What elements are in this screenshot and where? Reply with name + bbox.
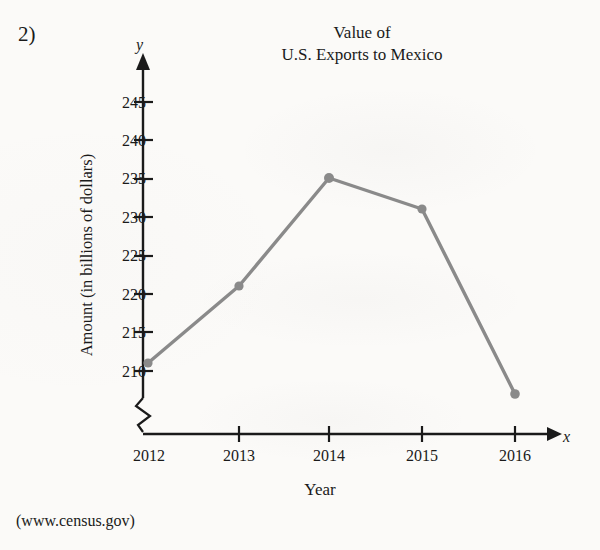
data-point-2014 (324, 173, 334, 183)
plot-area (0, 0, 600, 550)
source-note: (www.census.gov) (16, 512, 135, 530)
y-axis-break-symbol (136, 398, 150, 432)
x-axis-line (143, 427, 562, 441)
data-point-2015 (417, 204, 426, 213)
data-line-series (148, 178, 515, 394)
exports-line-chart-figure: 2) Value of U.S. Exports to Mexico y x A… (0, 0, 600, 550)
data-point-2013 (234, 281, 243, 290)
y-axis-line (136, 53, 150, 398)
data-point-2016 (510, 389, 520, 399)
data-point-2012 (143, 358, 152, 367)
data-point-markers (143, 173, 519, 399)
